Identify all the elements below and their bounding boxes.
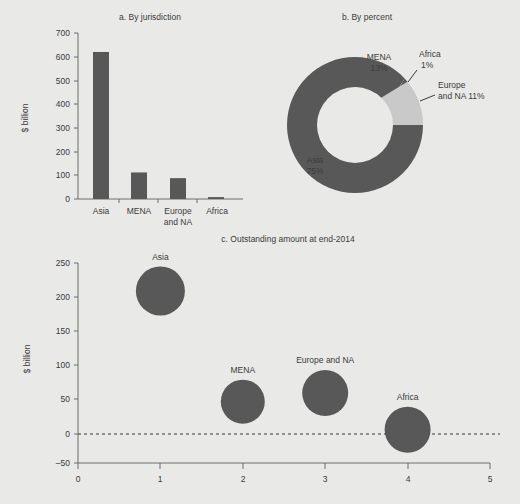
panel-a-x-ticks bbox=[119, 199, 197, 203]
panel-b-donut-chart: b. By percent MENA 13% Asia 75% bbox=[255, 0, 520, 232]
panel-c-bubble-labels: Asia MENA Europe and NA Africa bbox=[152, 252, 419, 402]
bubble-europe-and-na bbox=[302, 370, 348, 416]
donut-label-mena-value: 13% bbox=[370, 63, 387, 73]
panel-c-xtick-5: 5 bbox=[488, 474, 493, 484]
bubble-label-europe-and-na: Europe and NA bbox=[296, 355, 354, 365]
bubble-label-mena: MENA bbox=[231, 365, 256, 375]
panel-a-ytick-200: 200 bbox=[56, 147, 70, 157]
bar-africa bbox=[208, 197, 224, 199]
bubble-asia bbox=[136, 267, 185, 316]
donut-label-asia-name: Asia bbox=[307, 155, 324, 165]
donut-callout-africa: Africa 1% bbox=[408, 49, 441, 82]
bubble-africa bbox=[385, 407, 431, 453]
panel-c-ytick-50: 50 bbox=[61, 394, 71, 404]
panel-c-xtick-4: 4 bbox=[406, 474, 411, 484]
bar-mena bbox=[131, 172, 147, 199]
panel-a-bars bbox=[93, 52, 224, 199]
donut-label-europe-line2: and NA 11% bbox=[438, 91, 485, 101]
panel-a-ytick-0: 0 bbox=[65, 194, 70, 204]
donut-label-europe-line1: Europe bbox=[438, 80, 466, 90]
panel-a-ytick-400: 400 bbox=[56, 99, 70, 109]
panel-a-ytick-100: 100 bbox=[56, 170, 70, 180]
panel-c-xtick-3: 3 bbox=[323, 474, 328, 484]
bubble-mena bbox=[221, 380, 265, 424]
europe-leader-line bbox=[420, 95, 435, 101]
donut-label-africa-name: Africa bbox=[419, 49, 441, 59]
panel-c-title: c. Outstanding amount at end-2014 bbox=[221, 234, 355, 244]
panel-c-xtick-0: 0 bbox=[76, 474, 81, 484]
category-label-mena: MENA bbox=[127, 206, 152, 216]
panel-c-y-ticks: 250 200 150 100 50 0 –50 bbox=[56, 258, 78, 468]
panel-c-ytick-0: 0 bbox=[65, 429, 70, 439]
panel-c-xtick-1: 1 bbox=[158, 474, 163, 484]
donut-callout-europe-and-na: Europe and NA 11% bbox=[420, 80, 485, 101]
panel-a-title: a. By jurisdiction bbox=[119, 12, 181, 22]
panel-c-xtick-2: 2 bbox=[241, 474, 246, 484]
donut-label-africa-value: 1% bbox=[421, 60, 434, 70]
panel-a-y-axis-label: $ billion bbox=[20, 103, 30, 132]
panel-a-ytick-300: 300 bbox=[56, 123, 70, 133]
donut-chart-svg: b. By percent MENA 13% Asia 75% bbox=[255, 0, 520, 232]
donut-label-mena-name: MENA bbox=[367, 52, 392, 62]
panel-c-bubbles bbox=[136, 267, 431, 453]
panel-a-ytick-500: 500 bbox=[56, 76, 70, 86]
panel-c-ytick-250: 250 bbox=[56, 258, 70, 268]
bubble-chart-svg: c. Outstanding amount at end-2014 $ bill… bbox=[0, 228, 520, 504]
panel-a-category-labels: Asia MENA Europe and NA Africa bbox=[93, 206, 228, 227]
panel-b-title: b. By percent bbox=[342, 12, 393, 22]
bar-europe-and-na bbox=[170, 178, 186, 199]
panel-a-ytick-600: 600 bbox=[56, 52, 70, 62]
bar-asia bbox=[93, 52, 109, 199]
category-label-europe-line1: Europe bbox=[164, 206, 192, 216]
bubble-label-asia: Asia bbox=[152, 252, 169, 262]
panel-c-x-ticks: 0 1 2 3 4 5 bbox=[76, 463, 493, 484]
panel-a-ytick-700: 700 bbox=[56, 28, 70, 38]
donut-hole bbox=[317, 87, 393, 163]
africa-leader-line bbox=[408, 70, 417, 82]
panel-a-bar-chart: a. By jurisdiction $ billion 700 600 500… bbox=[0, 0, 260, 232]
donut-label-asia-value: 75% bbox=[306, 166, 323, 176]
panel-c-ytick-150: 150 bbox=[56, 326, 70, 336]
panel-a-y-ticks: 700 600 500 400 300 200 100 0 bbox=[56, 28, 78, 204]
category-label-europe-line2: and NA bbox=[164, 217, 193, 227]
panel-c-ytick-200: 200 bbox=[56, 292, 70, 302]
figure-container: a. By jurisdiction $ billion 700 600 500… bbox=[0, 0, 520, 504]
bar-chart-svg: a. By jurisdiction $ billion 700 600 500… bbox=[0, 0, 260, 232]
panel-c-y-axis-label: $ billion bbox=[22, 344, 32, 373]
category-label-asia: Asia bbox=[93, 206, 110, 216]
bubble-label-africa: Africa bbox=[397, 392, 419, 402]
panel-c-bubble-chart: c. Outstanding amount at end-2014 $ bill… bbox=[0, 228, 520, 504]
panel-c-ytick-neg50: –50 bbox=[56, 458, 70, 468]
category-label-africa: Africa bbox=[206, 206, 228, 216]
panel-c-ytick-100: 100 bbox=[56, 360, 70, 370]
